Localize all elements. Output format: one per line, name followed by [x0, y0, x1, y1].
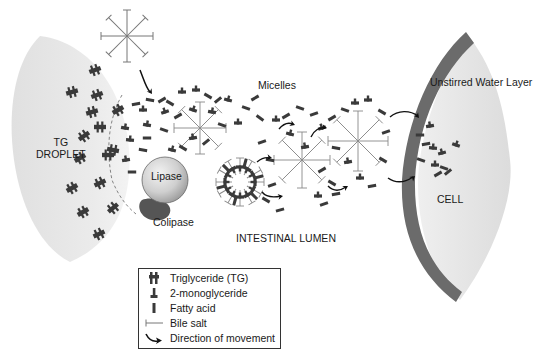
micelle: [328, 111, 388, 171]
tg-droplet-label: TG DROPLET: [36, 136, 86, 160]
arrow-icon: [143, 331, 165, 345]
legend-label: 2-monoglyceride: [170, 287, 248, 299]
tg-droplet-label-line1: TG: [36, 136, 86, 148]
legend-item-bile-salt: Bile salt: [139, 316, 280, 330]
legend-label: Bile salt: [170, 317, 207, 329]
legend-item-direction: Direction of movement: [139, 331, 280, 345]
colipase-label: Colipase: [153, 216, 194, 228]
unstirred-water-layer-label: Unstirred Water Layer: [430, 76, 532, 88]
legend: Triglyceride (TG) 2-monoglyceride Fatty …: [138, 268, 281, 349]
monoglyceride-icon: [143, 286, 165, 300]
lipase-label: Lipase: [151, 170, 182, 182]
tg-droplet-label-line2: DROPLET: [36, 148, 86, 160]
micelles-label: Micelles: [258, 79, 296, 91]
intestinal-lumen-label: INTESTINAL LUMEN: [236, 232, 336, 244]
legend-item-monoglyceride: 2-monoglyceride: [139, 286, 280, 300]
bile-salt-icon: [143, 316, 165, 330]
legend-label: Fatty acid: [170, 302, 216, 314]
triglyceride-icon: [143, 271, 165, 285]
cell: [402, 32, 511, 302]
legend-label: Direction of movement: [170, 332, 275, 344]
movement-arrows: [257, 112, 418, 197]
legend-label: Triglyceride (TG): [170, 272, 248, 284]
fatty-acid-icon: [143, 301, 165, 315]
cell-label: CELL: [437, 193, 463, 205]
legend-item-fatty-acid: Fatty acid: [139, 301, 280, 315]
micelle: [274, 132, 330, 188]
legend-item-triglyceride: Triglyceride (TG): [139, 271, 280, 285]
bile-salt-cluster: [101, 10, 153, 62]
